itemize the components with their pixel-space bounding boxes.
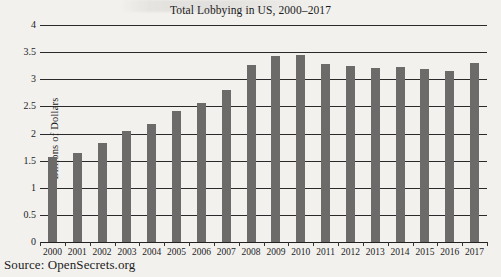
- bar-2012: [346, 66, 355, 242]
- bar-2006: [197, 103, 206, 242]
- x-axis-tick-label-2017: 2017: [462, 247, 488, 258]
- lobbying-bar-chart-figure: Total Lobbying in US, 2000–2017 00.511.5…: [0, 0, 501, 277]
- x-axis-tick-label-2012: 2012: [337, 247, 363, 258]
- x-axis-tick-label-2015: 2015: [412, 247, 438, 258]
- x-axis-tick-mark: [338, 242, 339, 246]
- bar-2016: [445, 71, 454, 242]
- x-axis-tick-mark: [462, 242, 463, 246]
- x-axis-tick-mark: [487, 242, 488, 246]
- x-axis-tick-mark: [264, 242, 265, 246]
- x-axis-tick-label-2013: 2013: [362, 247, 388, 258]
- x-axis-tick-mark: [139, 242, 140, 246]
- x-axis-tick-mark: [189, 242, 190, 246]
- bar-2009: [271, 56, 280, 242]
- bar-2015: [420, 69, 429, 242]
- bar-2010: [296, 55, 305, 242]
- y-axis-tick-label: 1.5: [10, 156, 36, 166]
- x-axis-tick-mark: [363, 242, 364, 246]
- x-axis-tick-label-2014: 2014: [387, 247, 413, 258]
- bar-2011: [321, 64, 330, 242]
- bar-2008: [247, 65, 256, 242]
- plot-area: Billions of Dollars: [40, 25, 487, 242]
- y-axis-tick-labels: 00.511.522.533.54: [6, 0, 36, 277]
- x-axis-tick-mark: [214, 242, 215, 246]
- source-note: Source: OpenSecrets.org: [4, 257, 135, 273]
- x-axis-tick-mark: [65, 242, 66, 246]
- x-axis-tick-mark: [90, 242, 91, 246]
- y-axis-tick-label: 3.5: [10, 47, 36, 57]
- x-axis-tick-mark: [164, 242, 165, 246]
- gridline: [40, 52, 487, 53]
- x-axis-tick-label-2009: 2009: [263, 247, 289, 258]
- bar-2014: [396, 67, 405, 242]
- y-axis-tick-label: 2: [10, 129, 36, 139]
- x-axis-tick-label-2006: 2006: [188, 247, 214, 258]
- bar-2013: [371, 68, 380, 242]
- bar-2017: [470, 63, 479, 242]
- y-axis-tick-label: 2.5: [10, 101, 36, 111]
- x-axis-tick-label-2002: 2002: [89, 247, 115, 258]
- y-axis-tick-label: 0.5: [10, 210, 36, 220]
- bar-2002: [98, 143, 107, 242]
- x-axis-tick-mark: [388, 242, 389, 246]
- bar-2007: [222, 90, 231, 242]
- y-axis-tick-label: 4: [10, 20, 36, 30]
- x-axis-tick-label-2005: 2005: [164, 247, 190, 258]
- x-axis-tick-mark: [288, 242, 289, 246]
- x-axis-tick-label-2003: 2003: [114, 247, 140, 258]
- y-axis-tick-label: 1: [10, 183, 36, 193]
- x-axis-tick-label-2007: 2007: [213, 247, 239, 258]
- x-axis-tick-mark: [413, 242, 414, 246]
- bar-2000: [48, 157, 57, 242]
- bar-2001: [73, 153, 82, 242]
- bar-2003: [122, 131, 131, 242]
- gridline: [40, 25, 487, 26]
- x-axis-tick-mark: [40, 242, 41, 246]
- x-axis-tick-label-2010: 2010: [288, 247, 314, 258]
- y-axis-tick-label: 3: [10, 74, 36, 84]
- x-axis-tick-mark: [437, 242, 438, 246]
- chart-title: Total Lobbying in US, 2000–2017: [0, 4, 501, 16]
- bar-2004: [147, 124, 156, 242]
- x-axis-tick-label-2011: 2011: [313, 247, 339, 258]
- x-axis-tick-mark: [239, 242, 240, 246]
- x-axis-tick-label-2000: 2000: [39, 247, 65, 258]
- x-axis-tick-label-2008: 2008: [238, 247, 264, 258]
- y-axis-tick-label: 0: [10, 237, 36, 247]
- bar-2005: [172, 111, 181, 242]
- x-axis-tick-label-2001: 2001: [64, 247, 90, 258]
- x-axis-tick-label-2004: 2004: [139, 247, 165, 258]
- x-axis-tick-mark: [313, 242, 314, 246]
- x-axis-tick-mark: [115, 242, 116, 246]
- x-axis-tick-label-2016: 2016: [437, 247, 463, 258]
